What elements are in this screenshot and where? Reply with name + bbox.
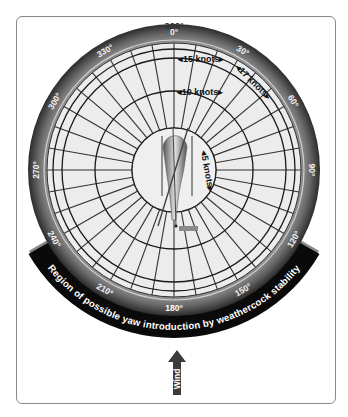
compass-label-270: 270°: [31, 161, 41, 179]
speed-ring-label-10: ◂10 knots▸: [176, 87, 224, 97]
speed-ring-label-15: ◂15 knots▸: [177, 54, 225, 64]
wind-azimuth-diagram: Region of possible yaw introduction by w…: [0, 0, 348, 417]
wind-label: Wind: [172, 369, 182, 390]
heading-360-label: 360°: [164, 20, 184, 31]
wind-arrow: Wind: [168, 350, 186, 395]
compass-label-180: 180°: [165, 303, 183, 313]
compass-label-90: 90°: [307, 164, 317, 177]
